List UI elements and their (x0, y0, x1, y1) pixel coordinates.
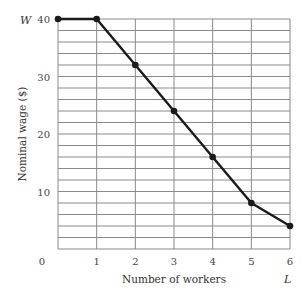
y-axis-symbol: W (20, 14, 33, 27)
x-tick-labels: 123456 (93, 256, 293, 267)
y-tick-labels: 10203040 (37, 14, 50, 198)
y-tick-label: 40 (37, 14, 50, 25)
x-tick-label: 5 (248, 256, 254, 267)
nominal-wage-chart: W 10203040 123456 0 Nominal wage ($) Num… (0, 0, 305, 301)
x-tick-label: 1 (93, 256, 99, 267)
x-axis-symbol: L (283, 273, 291, 286)
x-axis-label: Number of workers (122, 273, 226, 285)
y-tick-label: 30 (37, 72, 50, 83)
data-point (132, 62, 139, 69)
data-point (209, 154, 216, 161)
y-tick-label: 20 (37, 129, 50, 140)
data-point (55, 16, 62, 23)
data-point (287, 223, 294, 230)
data-point (93, 16, 100, 23)
data-point (171, 108, 178, 115)
data-point (248, 200, 255, 207)
x-tick-label: 3 (171, 256, 177, 267)
x-tick-label: 2 (132, 256, 138, 267)
origin-label: 0 (39, 256, 45, 267)
grid-lines (58, 19, 290, 249)
y-tick-label: 10 (37, 187, 50, 198)
x-tick-label: 6 (287, 256, 293, 267)
x-tick-label: 4 (209, 256, 215, 267)
y-axis-label: Nominal wage ($) (16, 87, 28, 182)
